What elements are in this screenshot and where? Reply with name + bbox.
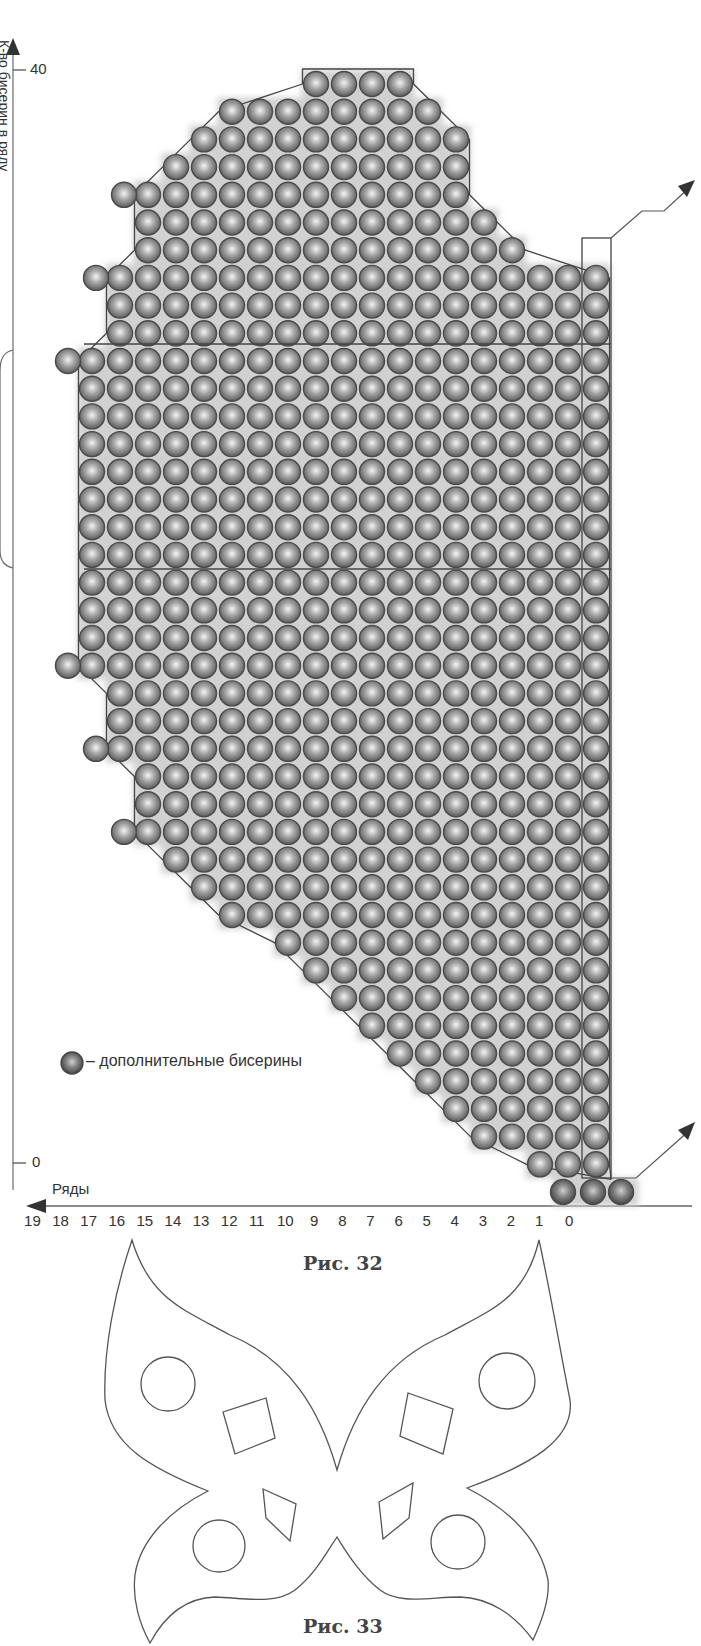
bead: [360, 349, 385, 374]
bead: [472, 1069, 497, 1094]
bead: [136, 598, 161, 623]
bead: [528, 875, 553, 900]
bead: [556, 598, 581, 623]
bead: [528, 293, 553, 318]
bead: [220, 653, 245, 678]
bead: [304, 709, 329, 734]
bead: [108, 349, 133, 374]
bead: [528, 349, 553, 374]
bead: [220, 764, 245, 789]
bead: [108, 376, 133, 401]
bead: [388, 238, 413, 263]
bead: [80, 487, 105, 512]
bead: [444, 376, 469, 401]
bead: [360, 986, 385, 1011]
bead: [472, 376, 497, 401]
bead: [500, 653, 525, 678]
bead: [220, 847, 245, 872]
bead: [528, 709, 553, 734]
bead: [472, 238, 497, 263]
x-tick: 10: [277, 1212, 294, 1229]
wing-hole-circle: [193, 1520, 245, 1572]
bead: [164, 432, 189, 457]
bead: [472, 1013, 497, 1038]
bead: [444, 570, 469, 595]
bead: [332, 819, 357, 844]
bead: [388, 459, 413, 484]
bead: [584, 1069, 609, 1094]
bead: [332, 321, 357, 346]
bead: [220, 515, 245, 540]
bead: [80, 542, 105, 567]
bead: [304, 182, 329, 207]
bead: [248, 847, 273, 872]
bead: [108, 570, 133, 595]
bead: [388, 293, 413, 318]
bead: [276, 265, 301, 290]
bead: [472, 958, 497, 983]
bead: [500, 875, 525, 900]
bead: [164, 293, 189, 318]
bead: [220, 321, 245, 346]
bead: [108, 653, 133, 678]
bead: [528, 432, 553, 457]
bead: [136, 626, 161, 651]
bead: [136, 265, 161, 290]
bead: [584, 570, 609, 595]
bead: [192, 459, 217, 484]
figure-32-caption: Рис. 32: [303, 1252, 383, 1274]
bead: [220, 626, 245, 651]
bead: [416, 515, 441, 540]
bead: [304, 487, 329, 512]
bead: [416, 764, 441, 789]
bead: [472, 542, 497, 567]
bead: [276, 819, 301, 844]
bead: [416, 875, 441, 900]
bead: [360, 432, 385, 457]
bead: [220, 99, 245, 124]
bead: [444, 155, 469, 180]
bead: [360, 542, 385, 567]
bead: [220, 349, 245, 374]
bead: [192, 265, 217, 290]
bead: [164, 792, 189, 817]
bead: [248, 238, 273, 263]
bead: [332, 875, 357, 900]
bead: [500, 792, 525, 817]
bead: [332, 210, 357, 235]
bead: [528, 1152, 553, 1177]
bead: [248, 182, 273, 207]
bead: [388, 127, 413, 152]
bead: [556, 764, 581, 789]
bead: [192, 155, 217, 180]
bead: [472, 404, 497, 429]
bead: [220, 182, 245, 207]
bead: [416, 847, 441, 872]
bead: [360, 653, 385, 678]
bead: [584, 349, 609, 374]
bead: [360, 598, 385, 623]
bead: [332, 72, 357, 97]
bead: [500, 930, 525, 955]
bead: [164, 182, 189, 207]
bead: [304, 459, 329, 484]
bead: [500, 986, 525, 1011]
bead: [500, 293, 525, 318]
bead: [416, 986, 441, 1011]
bead: [528, 792, 553, 817]
wing-hole-square: [400, 1393, 453, 1454]
bead: [304, 321, 329, 346]
bead: [444, 930, 469, 955]
bead: [220, 293, 245, 318]
bead: [360, 958, 385, 983]
butterfly-outline: [105, 1240, 571, 1643]
bead: [528, 487, 553, 512]
bead: [248, 542, 273, 567]
x-tick: 16: [108, 1212, 125, 1229]
bead: [164, 265, 189, 290]
bead: [388, 210, 413, 235]
bead: [444, 1013, 469, 1038]
bead: [360, 265, 385, 290]
bead: [276, 847, 301, 872]
bead: [332, 570, 357, 595]
